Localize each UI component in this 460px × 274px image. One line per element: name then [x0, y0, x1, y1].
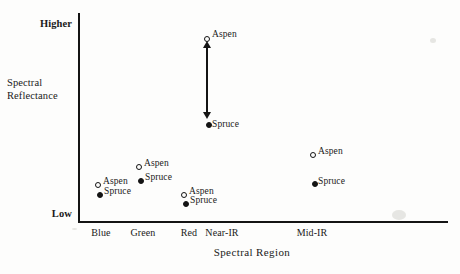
data-point-label-red-spruce: Spruce [190, 195, 217, 205]
x-tick-label-green: Green [131, 227, 156, 238]
data-point-label-near-ir-aspen: Aspen [212, 29, 237, 39]
data-point-blue-aspen [95, 182, 101, 188]
data-point-green-aspen [136, 164, 142, 170]
arrow-head-up-icon [203, 41, 211, 48]
x-axis-line [78, 221, 448, 223]
x-tick-label-blue: Blue [91, 227, 110, 238]
y-axis-min-label: Low [26, 208, 72, 219]
data-point-label-mid-ir-aspen: Aspen [318, 146, 343, 156]
data-point-label-blue-spruce: Spruce [104, 186, 131, 196]
data-point-label-mid-ir-spruce: Spruce [318, 176, 345, 186]
x-tick-label-red: Red [181, 227, 197, 238]
x-axis-title: Spectral Region [0, 246, 460, 258]
arrow-shaft [206, 46, 208, 116]
scan-speckle [392, 210, 406, 220]
data-point-blue-spruce [97, 192, 103, 198]
x-tick-label-near-ir: Near-IR [205, 227, 238, 238]
scan-speckle [430, 38, 436, 43]
scan-speckle [72, 228, 77, 230]
data-point-mid-ir-aspen [310, 152, 316, 158]
y-axis-title-line-1: Spectral [7, 76, 75, 89]
x-tick-label-mid-ir: Mid-IR [297, 227, 328, 238]
arrow-head-down-icon [203, 112, 211, 119]
data-point-label-near-ir-spruce: Spruce [212, 119, 239, 129]
y-axis-title-line-2: Reflectance [7, 89, 75, 102]
data-point-red-spruce [183, 201, 189, 207]
y-axis-line [78, 13, 80, 223]
y-axis-title: Spectral Reflectance [7, 76, 75, 102]
data-point-red-aspen [181, 192, 187, 198]
chart-figure: Higher Low Spectral Reflectance BlueGree… [0, 0, 460, 274]
y-axis-max-label: Higher [26, 18, 72, 29]
x-axis-title-text: Spectral Region [170, 246, 291, 258]
data-point-label-green-spruce: Spruce [145, 172, 172, 182]
data-point-green-spruce [138, 178, 144, 184]
data-point-label-green-aspen: Aspen [144, 158, 169, 168]
data-point-label-blue-aspen: Aspen [103, 176, 128, 186]
